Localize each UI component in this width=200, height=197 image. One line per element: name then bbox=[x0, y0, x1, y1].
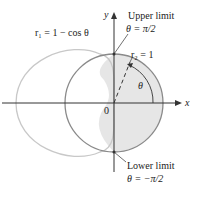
y-axis-arrow-icon bbox=[111, 12, 117, 19]
x-axis-arrow-icon bbox=[175, 100, 182, 106]
lower-limit-title: Lower limit bbox=[127, 161, 175, 171]
x-axis-label: x bbox=[185, 98, 189, 108]
upper-intersection-point bbox=[113, 53, 116, 56]
upper-limit-equation: θ = π/2 bbox=[126, 24, 155, 34]
theta-label: θ bbox=[138, 81, 143, 91]
lower-intersection-point bbox=[113, 151, 116, 154]
upper-limit-title: Upper limit bbox=[128, 11, 174, 21]
origin-label: 0 bbox=[104, 106, 109, 116]
upper-limit-leader bbox=[114, 34, 128, 54]
r2-label: r₂ = 1 bbox=[131, 50, 153, 60]
lower-limit-leader bbox=[114, 152, 126, 162]
polar-area-diagram: r₁ = 1 − cos θ r₂ = 1 Upper limit θ = π/… bbox=[0, 0, 200, 197]
cardioid-label: r₁ = 1 − cos θ bbox=[35, 28, 89, 38]
lower-limit-equation: θ = −π/2 bbox=[127, 174, 163, 184]
y-axis-label: y bbox=[104, 10, 108, 20]
